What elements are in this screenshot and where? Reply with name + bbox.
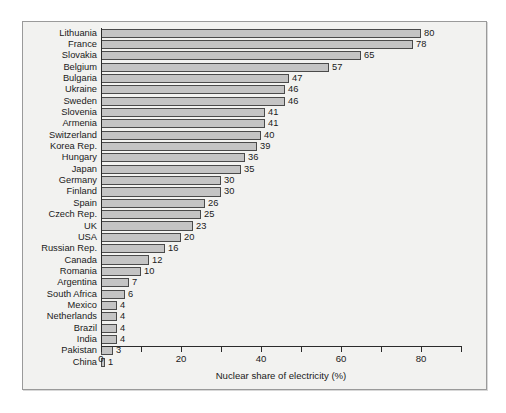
bar-category-label: Russian Rep. xyxy=(41,245,97,254)
x-tick-minor xyxy=(461,347,462,352)
bar xyxy=(101,119,265,128)
bar-row: Germany30 xyxy=(101,175,461,186)
bar xyxy=(101,267,141,276)
bar xyxy=(101,199,205,208)
bar-value-label: 46 xyxy=(288,97,298,106)
bar-value-label: 78 xyxy=(416,40,426,49)
bar xyxy=(101,244,165,253)
bar-row: Netherlands4 xyxy=(101,312,461,323)
bar xyxy=(101,255,149,264)
bar-value-label: 41 xyxy=(268,108,278,117)
x-tick-major xyxy=(261,347,262,352)
bar xyxy=(101,108,265,117)
bar-value-label: 23 xyxy=(196,222,206,231)
bar xyxy=(101,131,261,140)
bar xyxy=(101,324,117,333)
bar-row: Hungary36 xyxy=(101,153,461,164)
bar-row: South Africa6 xyxy=(101,289,461,300)
bar xyxy=(101,290,125,299)
bar xyxy=(101,142,257,151)
bar-row: Ukraine46 xyxy=(101,85,461,96)
x-tick-label: 20 xyxy=(176,354,187,364)
x-tick-major xyxy=(341,347,342,352)
bar-value-label: 16 xyxy=(168,245,178,254)
bar-value-label: 4 xyxy=(120,313,125,322)
bar-category-label: Ukraine xyxy=(65,86,97,95)
bar-category-label: Finland xyxy=(67,188,98,197)
bar xyxy=(101,312,117,321)
bar-row: USA20 xyxy=(101,232,461,243)
bar-category-label: Korea Rep. xyxy=(50,142,97,151)
x-tick-minor xyxy=(221,347,222,352)
bar-category-label: Lithuania xyxy=(59,29,97,38)
bar-category-label: China xyxy=(73,358,97,367)
x-tick-minor xyxy=(381,347,382,352)
bar-row: Switzerland40 xyxy=(101,130,461,141)
bar-row: Romania10 xyxy=(101,266,461,277)
y-axis-line xyxy=(101,28,102,346)
bar-row: Armenia41 xyxy=(101,119,461,130)
bar-row: Czech Rep.25 xyxy=(101,210,461,221)
bar-value-label: 36 xyxy=(248,154,258,163)
bar-value-label: 20 xyxy=(184,233,194,242)
bar-category-label: Argentina xyxy=(57,279,97,288)
bar-row: Sweden46 xyxy=(101,96,461,107)
bar-category-label: Brazil xyxy=(74,324,97,333)
x-tick-label: 60 xyxy=(336,354,347,364)
bar-row: Pakistan3 xyxy=(101,346,461,357)
bar-row: Mexico4 xyxy=(101,300,461,311)
bar-row: Russian Rep.16 xyxy=(101,244,461,255)
bar-category-label: Japan xyxy=(72,165,97,174)
bar-category-label: Romania xyxy=(60,267,97,276)
bar-row: Canada12 xyxy=(101,255,461,266)
bar xyxy=(101,97,285,106)
bar-value-label: 4 xyxy=(120,335,125,344)
bar-value-label: 3 xyxy=(116,347,121,356)
bar-value-label: 1 xyxy=(108,358,113,367)
bar-value-label: 47 xyxy=(292,74,302,83)
bar xyxy=(101,85,285,94)
bar-value-label: 41 xyxy=(268,120,278,129)
bar-row: China1 xyxy=(101,357,461,368)
x-tick-major xyxy=(181,347,182,352)
bar xyxy=(101,278,129,287)
bar-row: Argentina7 xyxy=(101,278,461,289)
bar-value-label: 80 xyxy=(424,29,434,38)
bar xyxy=(101,335,117,344)
bar-category-label: Switzerland xyxy=(49,131,97,140)
bar xyxy=(101,51,361,60)
bar-category-label: Slovenia xyxy=(61,108,97,117)
bar-category-label: Armenia xyxy=(62,120,97,129)
bar-row: Slovenia41 xyxy=(101,107,461,118)
bar-category-label: India xyxy=(77,335,97,344)
bar xyxy=(101,153,245,162)
bar xyxy=(101,210,201,219)
x-axis-line xyxy=(101,346,462,347)
bar-category-label: Belgium xyxy=(63,63,97,72)
bar-row: Belgium57 xyxy=(101,62,461,73)
bar-value-label: 4 xyxy=(120,301,125,310)
bar-row: Slovakia65 xyxy=(101,51,461,62)
bar-category-label: Bulgaria xyxy=(63,74,97,83)
bar-value-label: 4 xyxy=(120,324,125,333)
bar-row: UK23 xyxy=(101,221,461,232)
bar xyxy=(101,221,193,230)
bar-value-label: 65 xyxy=(364,52,374,61)
x-axis-title: Nuclear share of electricity (%) xyxy=(101,370,461,381)
bar-value-label: 35 xyxy=(244,165,254,174)
x-tick-label: 0 xyxy=(98,354,103,364)
bar-value-label: 30 xyxy=(224,188,234,197)
x-tick-label: 40 xyxy=(256,354,267,364)
bar-value-label: 26 xyxy=(208,199,218,208)
bar-value-label: 57 xyxy=(332,63,342,72)
chart-figure: Lithuania80France78Slovakia65Belgium57Bu… xyxy=(22,21,487,390)
bar-category-label: UK xyxy=(84,222,97,231)
bar-category-label: Mexico xyxy=(68,301,97,310)
bar-row: Korea Rep.39 xyxy=(101,141,461,152)
bar-category-label: Hungary xyxy=(62,154,97,163)
bar xyxy=(101,63,329,72)
bar-category-label: Netherlands xyxy=(47,313,97,322)
bar-value-label: 7 xyxy=(132,279,137,288)
bar xyxy=(101,233,181,242)
bar-category-label: Spain xyxy=(73,199,97,208)
